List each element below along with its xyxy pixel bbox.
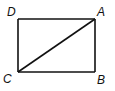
vertex-label-c: C (3, 72, 12, 86)
vertex-label-a: A (96, 5, 105, 19)
diagonal-ca (18, 19, 95, 72)
rectangle-diagram: D A C B (0, 0, 115, 91)
vertex-label-d: D (7, 5, 16, 19)
vertex-label-b: B (97, 73, 105, 87)
